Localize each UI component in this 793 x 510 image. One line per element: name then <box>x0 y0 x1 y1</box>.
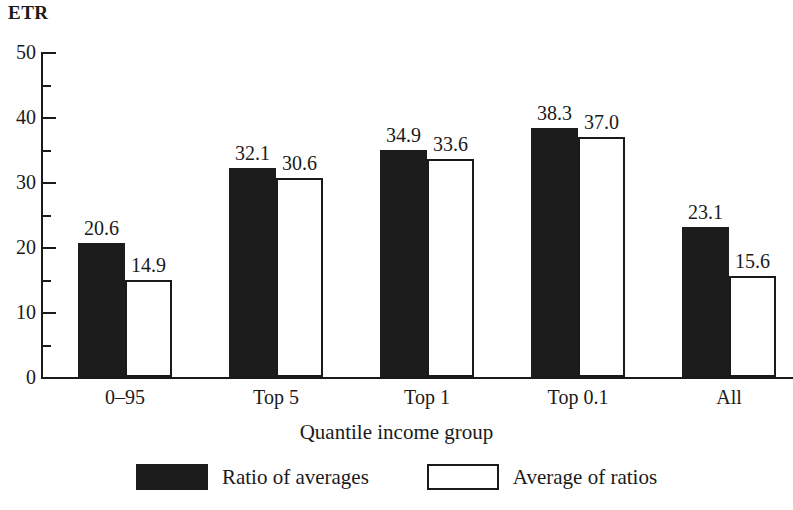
y-tick-label: 30 <box>2 172 36 192</box>
bar-ratio-of-averages <box>531 128 578 377</box>
legend-label-average-of-ratios: Average of ratios <box>513 465 657 489</box>
bar-ratio-of-averages <box>682 227 729 377</box>
y-tick-label: 50 <box>2 42 36 62</box>
y-tick-major <box>43 312 56 314</box>
y-axis-tick-labels: 01020304050 <box>0 52 36 382</box>
plot-area: 20.614.932.130.634.933.638.337.023.115.6 <box>41 52 793 378</box>
y-tick-label: 20 <box>2 237 36 257</box>
bar-average-of-ratios <box>125 280 172 377</box>
bar-value-label: 15.6 <box>720 251 785 271</box>
bar-average-of-ratios <box>427 159 474 377</box>
chart-legend: Ratio of averages Average of ratios <box>0 464 793 490</box>
bar-average-of-ratios <box>729 276 776 377</box>
y-tick-label: 0 <box>2 367 36 387</box>
bar-value-label: 14.9 <box>116 255 181 275</box>
bar-ratio-of-averages <box>229 168 276 377</box>
y-tick-major <box>43 247 56 249</box>
y-tick-major <box>43 117 56 119</box>
x-category-label: All <box>652 386 793 408</box>
x-category-label: Top 5 <box>199 386 353 408</box>
legend-swatch-hollow-icon <box>427 464 499 490</box>
y-axis-title: ETR <box>8 2 49 24</box>
bar-value-label: 23.1 <box>673 202 738 222</box>
x-category-label: 0–95 <box>48 386 202 408</box>
x-category-label: Top 0.1 <box>501 386 655 408</box>
y-tick-minor <box>43 85 51 87</box>
bar-value-label: 33.6 <box>418 134 483 154</box>
bar-value-label: 20.6 <box>69 218 134 238</box>
bar-average-of-ratios <box>578 137 625 378</box>
y-tick-major <box>43 182 56 184</box>
y-tick-minor <box>43 345 51 347</box>
chart-figure: ETR 01020304050 20.614.932.130.634.933.6… <box>0 0 793 510</box>
bar-value-label: 30.6 <box>267 153 332 173</box>
legend-label-ratio-of-averages: Ratio of averages <box>222 465 369 489</box>
x-axis-title: Quantile income group <box>0 420 793 444</box>
y-tick-label: 40 <box>2 107 36 127</box>
legend-entry-ratio-of-averages: Ratio of averages <box>136 464 369 490</box>
y-tick-major <box>43 377 56 379</box>
bar-average-of-ratios <box>276 178 323 377</box>
y-tick-major <box>43 52 56 54</box>
bar-value-label: 37.0 <box>569 112 634 132</box>
x-axis-line <box>41 377 793 379</box>
y-tick-minor <box>43 150 51 152</box>
y-tick-label: 10 <box>2 302 36 322</box>
y-tick-minor <box>43 280 51 282</box>
legend-entry-average-of-ratios: Average of ratios <box>427 464 657 490</box>
x-category-label: Top 1 <box>350 386 504 408</box>
bar-ratio-of-averages <box>380 150 427 377</box>
legend-swatch-filled-icon <box>136 464 208 490</box>
y-tick-minor <box>43 215 51 217</box>
